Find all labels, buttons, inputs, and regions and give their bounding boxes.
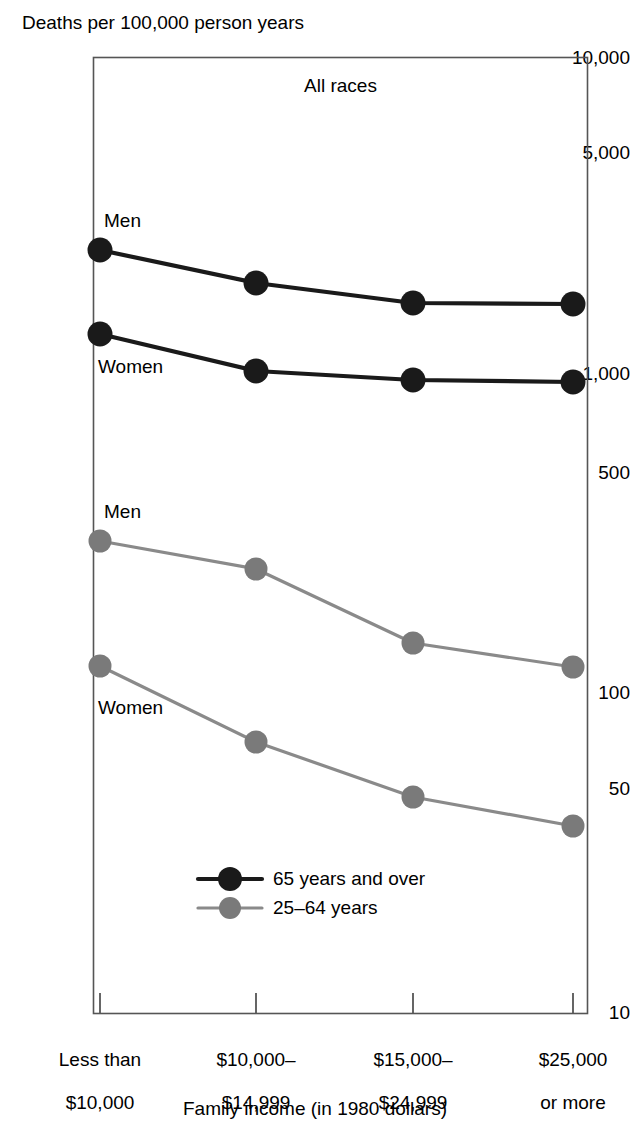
series-annotation-women-25-64: Women	[98, 697, 163, 719]
data-point	[88, 322, 113, 347]
data-point	[245, 731, 268, 754]
x-tick-line1: $15,000–	[373, 1049, 452, 1070]
series-annotation-women-65-over: Women	[98, 356, 163, 378]
legend-item-25-64: 25–64 years	[273, 897, 378, 919]
series-men-65-over	[88, 238, 586, 317]
legend-item-65-over: 65 years and over	[273, 868, 425, 890]
x-axis-ticks	[100, 993, 573, 1013]
data-point	[401, 291, 426, 316]
data-point	[88, 238, 113, 263]
series-women-25-64	[89, 655, 585, 838]
data-point	[561, 292, 586, 317]
data-point	[245, 558, 268, 581]
series-annotation-men-25-64: Men	[104, 501, 141, 523]
data-point	[402, 786, 425, 809]
data-point	[244, 271, 269, 296]
data-point	[562, 656, 585, 679]
data-point	[402, 632, 425, 655]
data-point	[401, 368, 426, 393]
series-annotation-men-65-over: Men	[104, 210, 141, 232]
data-point	[561, 370, 586, 395]
chart-figure: Deaths per 100,000 person years All race…	[0, 0, 630, 1144]
data-point	[89, 655, 112, 678]
chart-plot-area	[0, 0, 630, 1144]
legend-marker-65-over	[198, 867, 262, 891]
legend-marker-25-64	[198, 897, 262, 919]
x-tick-line1: $25,000	[539, 1049, 608, 1070]
data-point	[244, 359, 269, 384]
data-point	[562, 815, 585, 838]
x-tick-line1: $10,000–	[216, 1049, 295, 1070]
series-men-25-64	[89, 530, 585, 679]
x-tick-line1: Less than	[59, 1049, 141, 1070]
data-point	[89, 530, 112, 553]
x-axis-title: Family income (in 1980 dollars)	[0, 1098, 630, 1120]
